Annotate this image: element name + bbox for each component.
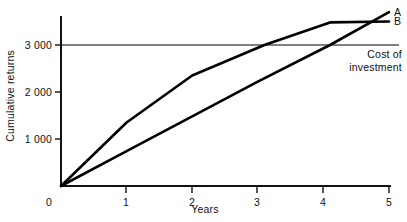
chart-plot-area bbox=[0, 0, 407, 222]
cost-of-investment-annotation: Cost of investment bbox=[349, 48, 402, 73]
x-tick-label-1: 1 bbox=[123, 196, 129, 208]
cumulative-returns-chart: Cumulative returns 3 000 2 000 1 000 0 1… bbox=[0, 0, 407, 222]
x-tick-label-5: 5 bbox=[386, 196, 392, 208]
y-tick-label-2000: 2 000 bbox=[8, 86, 52, 98]
cost-annotation-line-2: investment bbox=[349, 61, 402, 74]
x-tick-label-4: 4 bbox=[320, 196, 326, 208]
series-line-b bbox=[61, 12, 389, 186]
series-label-b: B bbox=[394, 15, 401, 27]
x-axis-ticks bbox=[126, 186, 389, 193]
y-tick-label-3000: 3 000 bbox=[8, 39, 52, 51]
x-axis-title: Years bbox=[191, 203, 218, 215]
y-tick-label-1000: 1 000 bbox=[8, 133, 52, 145]
x-tick-label-3: 3 bbox=[254, 196, 260, 208]
cost-annotation-line-1: Cost of bbox=[349, 48, 402, 61]
y-tick-label-0: 0 bbox=[8, 196, 52, 208]
